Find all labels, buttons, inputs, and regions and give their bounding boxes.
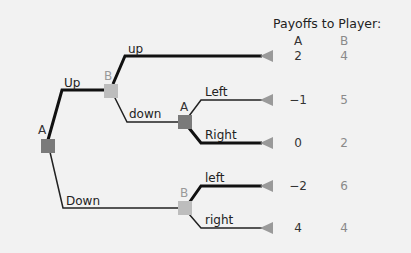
node-root-a bbox=[41, 139, 55, 153]
node-label-b-upper: B bbox=[104, 70, 112, 82]
payoff-col-b: B bbox=[334, 35, 354, 47]
edge-up bbox=[48, 90, 105, 140]
edge-b-up bbox=[113, 56, 262, 84]
terminal-1 bbox=[260, 50, 273, 62]
edge-label-right: Right bbox=[205, 129, 237, 141]
payoff-a-4: −2 bbox=[288, 180, 308, 192]
payoff-a-3: 0 bbox=[288, 137, 308, 149]
payoff-b-2: 5 bbox=[334, 94, 354, 106]
payoff-a-5: 4 bbox=[288, 222, 308, 234]
edge-label-right-small: right bbox=[205, 214, 233, 226]
terminal-4 bbox=[260, 180, 273, 192]
terminal-5 bbox=[260, 222, 273, 234]
payoff-col-a: A bbox=[288, 35, 308, 47]
payoff-b-4: 6 bbox=[334, 180, 354, 192]
terminal-3 bbox=[260, 137, 273, 149]
payoff-b-5: 4 bbox=[334, 222, 354, 234]
edge-left bbox=[189, 100, 262, 116]
payoff-a-1: 2 bbox=[288, 50, 308, 62]
game-tree-diagram: A B A B Up Down up down Left Right left … bbox=[0, 0, 411, 253]
payoff-header: Payoffs to Player: bbox=[273, 18, 381, 31]
node-b-upper bbox=[104, 84, 118, 98]
edge-label-left-small: left bbox=[205, 172, 224, 184]
edge-label-down-small: down bbox=[129, 108, 161, 120]
node-b-lower bbox=[178, 201, 192, 215]
edge-label-up-small: up bbox=[128, 43, 143, 55]
node-label-a-mid: A bbox=[180, 101, 188, 113]
edge-label-left: Left bbox=[205, 86, 228, 98]
terminal-2 bbox=[260, 94, 273, 106]
payoff-b-3: 2 bbox=[334, 137, 354, 149]
node-label-root: A bbox=[38, 124, 46, 136]
edge-label-down: Down bbox=[66, 195, 100, 207]
node-label-b-lower: B bbox=[180, 187, 188, 199]
payoff-b-1: 4 bbox=[334, 50, 354, 62]
node-a-mid bbox=[178, 115, 192, 129]
edge-b-left bbox=[189, 186, 262, 203]
edge-label-up: Up bbox=[64, 77, 80, 89]
payoff-a-2: −1 bbox=[288, 94, 308, 106]
